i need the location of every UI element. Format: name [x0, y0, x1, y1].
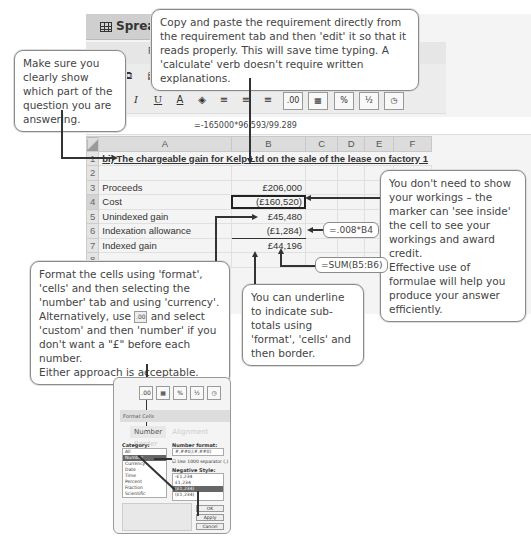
decimal-format-icon: .00 — [134, 311, 147, 323]
callout-text: Copy and paste the requirement directly … — [160, 16, 406, 84]
cell-b3[interactable]: £206,000 — [231, 180, 305, 195]
decimal-button[interactable]: .00 — [139, 386, 153, 400]
row-number[interactable]: 2 — [87, 166, 99, 181]
cell-a2[interactable] — [99, 166, 231, 181]
spreadsheet-icon — [100, 22, 112, 32]
dialog-tabs: Number Alignment Border — [130, 426, 230, 440]
column-header-a[interactable]: A — [99, 137, 231, 152]
apply-button[interactable]: Apply — [196, 514, 224, 521]
time-button[interactable]: ◷ — [384, 92, 404, 110]
connector-line — [254, 256, 256, 284]
formula-bar: B4 =-165000*96.593/99.289 — [86, 117, 531, 135]
column-header-e[interactable]: E — [365, 137, 394, 152]
callout-text: Make sure you clearly show which part of… — [23, 57, 113, 125]
cell-a5[interactable]: Unindexed gain — [99, 209, 231, 224]
format-cells-dialog-inset: .00 ▦ % ½ ◷ Format Cells Number Alignmen… — [113, 377, 231, 534]
percent-button[interactable]: % — [173, 386, 187, 400]
row-number[interactable]: 5 — [87, 209, 99, 224]
cell[interactable] — [306, 180, 338, 195]
cell-a7[interactable]: Indexed gain — [99, 238, 231, 253]
row-number[interactable]: 7 — [87, 238, 99, 253]
callout-text-formulae: Effective use of formulae will help you … — [389, 260, 517, 316]
cell-a6[interactable]: Indexation allowance — [99, 224, 231, 239]
callout-text: You can underline to indicate sub-totals… — [251, 291, 351, 359]
toolbar-formatting: B I U A ◈ ≡ ≡ ≡ .00 ▦ % ½ ◷ — [86, 88, 446, 114]
fraction-button[interactable]: ½ — [190, 386, 204, 400]
cell-b6[interactable]: (£1,284) — [231, 224, 305, 239]
number-format-button[interactable]: ▦ — [156, 386, 170, 400]
callout-text-part: Alternatively, use — [39, 310, 131, 322]
align-left-icon[interactable]: ≡ — [216, 92, 232, 108]
callout-workings: You don't need to show your workings – t… — [380, 170, 526, 322]
cell-a1-heading[interactable]: bi) The chargeable gain for Kelp Ltd on … — [99, 151, 431, 166]
connector-line — [197, 491, 199, 516]
connector-line — [280, 265, 316, 267]
time-button[interactable]: ◷ — [207, 386, 221, 400]
cell-a3[interactable]: Proceeds — [99, 180, 231, 195]
arrow-right-icon — [112, 155, 118, 161]
cancel-button[interactable]: Cancel — [196, 523, 224, 530]
column-header-f[interactable]: F — [394, 137, 431, 152]
formula-input[interactable]: =-165000*96.593/99.289 — [194, 121, 297, 130]
cell[interactable] — [306, 238, 338, 253]
align-right-icon[interactable]: ≡ — [260, 92, 276, 108]
cell-b4-selected[interactable]: (£160,520) — [231, 195, 305, 210]
cell-b2[interactable] — [231, 166, 305, 181]
checkbox-label: Use 1000 separator (,) — [177, 459, 228, 464]
row-number[interactable]: 6 — [87, 224, 99, 239]
decimal-button[interactable]: .00 — [283, 92, 303, 110]
connector-line — [61, 157, 113, 159]
callout-underline: You can underline to indicate sub-totals… — [242, 284, 364, 366]
fraction-button[interactable]: ½ — [359, 92, 379, 110]
arrow-up-icon — [252, 251, 258, 257]
column-header-b[interactable]: B — [231, 137, 305, 152]
cell[interactable] — [306, 166, 338, 181]
fill-color-icon[interactable]: ◈ — [194, 92, 210, 108]
connector-line — [249, 78, 251, 162]
formula-tag-b7: =SUM(B5:B6) — [315, 257, 388, 273]
table-row: 1 bi) The chargeable gain for Kelp Ltd o… — [87, 151, 432, 166]
tab-alignment[interactable]: Alignment — [168, 426, 212, 438]
cell[interactable] — [338, 180, 365, 195]
connector-line — [154, 458, 172, 460]
cell[interactable] — [338, 166, 365, 181]
tab-number[interactable]: Number — [130, 426, 166, 438]
number-format-button[interactable]: ▦ — [308, 92, 328, 110]
category-item[interactable]: Scientific — [123, 491, 166, 497]
separator-checkbox[interactable]: ☑ Use 1000 separator (,) — [172, 459, 228, 464]
dialog-title: Format Cells — [120, 410, 231, 422]
cell[interactable] — [338, 238, 365, 253]
connector-line — [310, 197, 380, 199]
row-number[interactable]: 3 — [87, 180, 99, 195]
number-format-input[interactable]: #,##0;(#,##0) — [172, 448, 224, 456]
spreadsheet-grid: A B C D E F 1 bi) The chargeable gain fo… — [86, 136, 416, 268]
callout-show-question-part: Make sure you clearly show which part of… — [14, 50, 126, 132]
preview-pane — [122, 503, 192, 531]
italic-button[interactable]: I — [128, 92, 144, 108]
ok-button[interactable]: OK — [196, 505, 224, 512]
cell-a4[interactable]: Cost — [99, 195, 231, 210]
percent-button[interactable]: % — [334, 92, 354, 110]
align-center-icon[interactable]: ≡ — [238, 92, 254, 108]
formula-tag-b6: =.008*B4 — [323, 222, 379, 238]
callout-text: Format the cells using 'format', 'cells'… — [39, 267, 221, 309]
underline-button[interactable]: U — [150, 92, 166, 108]
arrow-right-icon — [252, 214, 258, 220]
callout-text-workings: You don't need to show your workings – t… — [389, 176, 517, 260]
arrow-up-icon — [278, 248, 284, 254]
cell-b7[interactable]: £44,196 — [231, 238, 305, 253]
column-header-row: A B C D E F — [87, 137, 432, 152]
column-header-c[interactable]: C — [306, 137, 338, 152]
select-all-corner[interactable] — [87, 137, 99, 152]
font-color-button[interactable]: A — [172, 92, 188, 108]
arrow-left-icon — [307, 227, 313, 233]
row-number[interactable]: 4 — [87, 195, 99, 210]
callout-text: Alternatively, use .00 and select 'custo… — [39, 309, 221, 365]
connector-line — [61, 110, 63, 158]
column-header-d[interactable]: D — [338, 137, 365, 152]
arrow-left-icon — [305, 195, 311, 201]
category-list[interactable]: All Number Currency Date Time Percent Fr… — [122, 448, 167, 498]
arrow-down-icon — [247, 158, 253, 164]
connector-line — [280, 252, 282, 266]
callout-format-cells: Format the cells using 'format', 'cells'… — [30, 261, 230, 385]
